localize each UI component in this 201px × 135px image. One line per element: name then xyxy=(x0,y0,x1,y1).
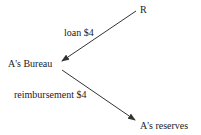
edge-label-loan: loan $4 xyxy=(64,27,94,39)
node-reserves: A's reserves xyxy=(140,120,188,132)
edge-label-reimbursement: reimbursement $4 xyxy=(14,89,86,101)
node-bureau: A's Bureau xyxy=(8,58,52,70)
node-r: R xyxy=(140,4,147,16)
